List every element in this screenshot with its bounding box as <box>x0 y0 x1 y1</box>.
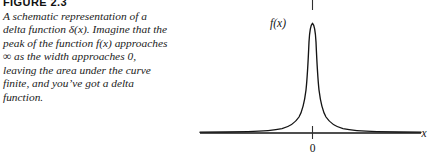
figure-number-label: FIGURE 2.3 <box>3 0 199 10</box>
caption-line: delta function δ(x). Imagine that the <box>3 23 199 37</box>
caption-line: peak of the function f(x) approaches <box>3 37 199 51</box>
delta-function-curve <box>200 23 421 132</box>
caption-line: A schematic representation of a <box>3 10 199 24</box>
plot-svg: f(x) x 0 <box>196 0 430 158</box>
delta-function-plot: f(x) x 0 <box>196 0 430 158</box>
caption-line: finite, and you’ve got a delta <box>3 77 199 91</box>
caption-line: function. <box>3 91 199 105</box>
x-axis-label: x <box>420 127 427 139</box>
figure-caption-block: FIGURE 2.3 A schematic representation of… <box>3 0 199 104</box>
figure-container: FIGURE 2.3 A schematic representation of… <box>0 0 430 158</box>
caption-line: leaving the area under the curve <box>3 64 199 78</box>
origin-tick-label: 0 <box>310 142 316 154</box>
y-axis-label: f(x) <box>270 17 286 30</box>
figure-caption-text: A schematic representation of a delta fu… <box>3 10 199 105</box>
caption-line: ∞ as the width approaches 0, <box>3 50 199 64</box>
